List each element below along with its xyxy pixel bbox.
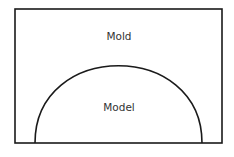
mold-diagram: Mold Model [0,0,234,157]
mold-label: Mold [106,30,131,42]
model-label: Model [103,101,135,113]
